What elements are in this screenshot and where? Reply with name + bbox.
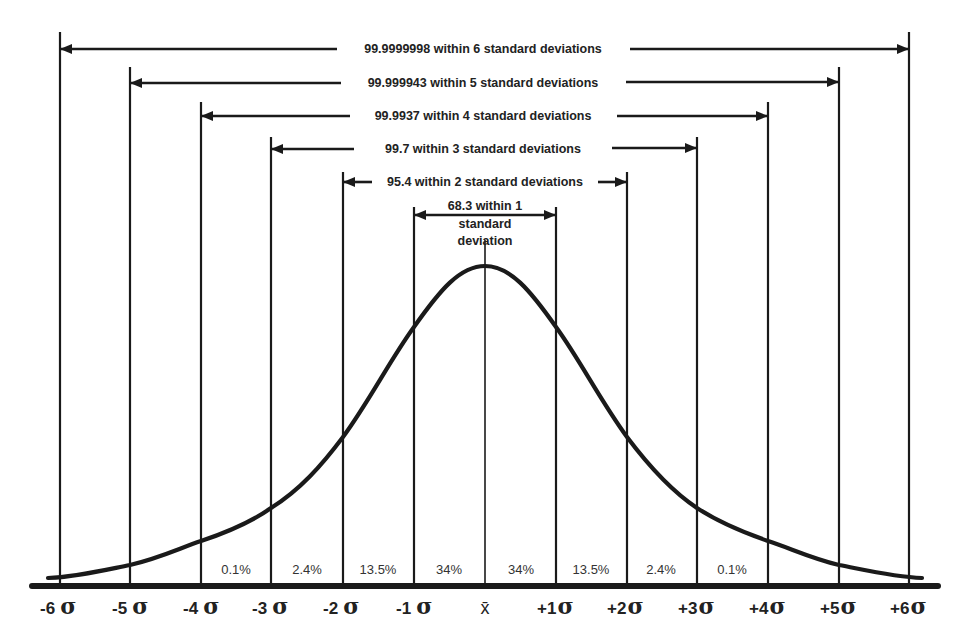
tick-plus-6-sigma: +6σ (890, 593, 927, 619)
range-label-6-sigma: 99.9999998 within 6 standard deviations (364, 42, 602, 56)
normal-distribution-diagram: 99.9999998 within 6 standard deviations … (0, 0, 972, 643)
tick-minus-5-sigma: -5σ (112, 593, 148, 619)
range-label-5-sigma: 99.999943 within 5 standard deviations (368, 76, 599, 90)
tick-minus-6-sigma: -6σ (40, 593, 76, 619)
tick-plus-2-sigma: +2σ (607, 593, 644, 619)
x-axis-labels: -6σ -5σ -4σ -3σ -2σ -1σ x̄ +1σ +2σ +3σ +… (40, 593, 927, 619)
band-pct-plus3-plus4: 0.1% (717, 562, 747, 577)
tick-minus-4-sigma: -4σ (183, 593, 219, 619)
tick-minus-2-sigma: -2σ (323, 593, 359, 619)
tick-minus-3-sigma: -3σ (252, 593, 288, 619)
range-label-1-sigma-line3: deviation (458, 234, 513, 248)
band-pct-minus1-mean: 34% (436, 562, 462, 577)
range-label-4-sigma: 99.9937 within 4 standard deviations (375, 109, 592, 123)
band-pct-minus3-minus2: 2.4% (292, 562, 322, 577)
range-label-2-sigma: 95.4 within 2 standard deviations (387, 175, 583, 189)
tick-minus-1-sigma: -1σ (396, 593, 432, 619)
range-labels: 99.9999998 within 6 standard deviations … (364, 42, 602, 248)
tick-plus-5-sigma: +5σ (820, 593, 857, 619)
band-pct-mean-plus1: 34% (508, 562, 534, 577)
band-pct-minus4-minus3: 0.1% (221, 562, 251, 577)
band-pct-minus2-minus1: 13.5% (360, 562, 397, 577)
range-label-1-sigma-line2: standard (459, 217, 512, 231)
tick-plus-4-sigma: +4σ (749, 593, 786, 619)
range-label-3-sigma: 99.7 within 3 standard deviations (385, 142, 581, 156)
range-arrows (61, 49, 908, 215)
tick-plus-1-sigma: +1σ (537, 593, 574, 619)
diagram-canvas: 99.9999998 within 6 standard deviations … (0, 0, 972, 643)
band-pct-plus2-plus3: 2.4% (646, 562, 676, 577)
band-pct-plus1-plus2: 13.5% (573, 562, 610, 577)
tick-plus-3-sigma: +3σ (678, 593, 715, 619)
tick-mean: x̄ (481, 598, 490, 618)
range-label-1-sigma-line1: 68.3 within 1 (448, 199, 522, 213)
